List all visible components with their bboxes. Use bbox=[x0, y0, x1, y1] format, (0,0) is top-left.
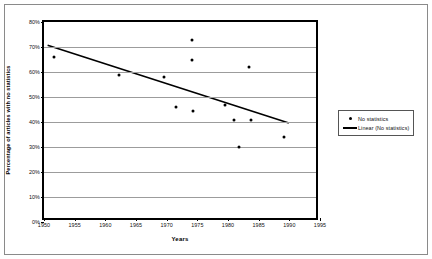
x-tick-label: 1970 bbox=[160, 222, 172, 228]
legend-label: No statistics bbox=[358, 116, 388, 122]
data-point bbox=[52, 56, 55, 59]
linear-trendline bbox=[44, 22, 316, 218]
y-tick-label: 10% bbox=[29, 194, 40, 200]
x-tick-mark bbox=[75, 218, 76, 221]
y-axis-label: Percentage of articles with no statistic… bbox=[5, 65, 11, 174]
data-point bbox=[163, 76, 166, 79]
data-point bbox=[233, 118, 236, 121]
x-tick-label: 1980 bbox=[222, 222, 234, 228]
gridline-horizontal bbox=[44, 122, 316, 123]
y-tick-label: 20% bbox=[29, 169, 40, 175]
x-tick-mark bbox=[289, 218, 290, 221]
x-tick-mark bbox=[228, 218, 229, 221]
y-tick-label: 80% bbox=[29, 19, 40, 25]
x-tick-label: 1995 bbox=[314, 222, 326, 228]
x-tick-label: 1965 bbox=[130, 222, 142, 228]
y-tick-label: 60% bbox=[29, 69, 40, 75]
x-tick-label: 1950 bbox=[38, 222, 50, 228]
legend-item-no-statistics: No statistics bbox=[342, 114, 409, 123]
x-tick-mark bbox=[197, 218, 198, 221]
data-point bbox=[191, 38, 194, 41]
gridline-horizontal bbox=[44, 197, 316, 198]
y-tick-mark bbox=[41, 72, 44, 73]
y-tick-mark bbox=[41, 147, 44, 148]
figure: 0%10%20%30%40%50%60%70%80%19501955196019… bbox=[0, 0, 432, 259]
scatter-chart: 0%10%20%30%40%50%60%70%80%19501955196019… bbox=[0, 0, 432, 259]
y-tick-label: 70% bbox=[29, 44, 40, 50]
data-point bbox=[174, 106, 177, 109]
x-tick-label: 1955 bbox=[68, 222, 80, 228]
gridline-horizontal bbox=[44, 172, 316, 173]
data-point bbox=[283, 136, 286, 139]
gridline-horizontal bbox=[44, 147, 316, 148]
x-tick-mark bbox=[320, 218, 321, 221]
y-tick-mark bbox=[41, 22, 44, 23]
x-tick-label: 1975 bbox=[191, 222, 203, 228]
y-tick-label: 40% bbox=[29, 119, 40, 125]
x-tick-mark bbox=[44, 218, 45, 221]
gridline-horizontal bbox=[44, 97, 316, 98]
y-tick-label: 30% bbox=[29, 144, 40, 150]
chart-legend: No statistics Linear (No statistics) bbox=[338, 110, 414, 136]
y-tick-mark bbox=[41, 47, 44, 48]
trendline-segment bbox=[48, 45, 289, 123]
legend-line-icon bbox=[342, 127, 358, 129]
x-tick-mark bbox=[167, 218, 168, 221]
y-tick-label: 50% bbox=[29, 94, 40, 100]
x-tick-label: 1960 bbox=[99, 222, 111, 228]
data-point bbox=[223, 103, 226, 106]
x-tick-mark bbox=[136, 218, 137, 221]
data-point bbox=[191, 58, 194, 61]
data-point bbox=[249, 118, 252, 121]
gridline-horizontal bbox=[44, 72, 316, 73]
data-point bbox=[248, 66, 251, 69]
legend-label: Linear (No statistics) bbox=[358, 125, 409, 131]
y-tick-mark bbox=[41, 97, 44, 98]
x-tick-mark bbox=[105, 218, 106, 221]
y-tick-mark bbox=[41, 197, 44, 198]
legend-marker-icon bbox=[342, 117, 358, 120]
data-point bbox=[192, 109, 195, 112]
y-tick-mark bbox=[41, 122, 44, 123]
data-point bbox=[117, 73, 120, 76]
x-tick-label: 1985 bbox=[252, 222, 264, 228]
x-axis-label: Years bbox=[42, 236, 318, 242]
gridline-horizontal bbox=[44, 47, 316, 48]
x-tick-mark bbox=[259, 218, 260, 221]
legend-item-linear-no-statistics: Linear (No statistics) bbox=[342, 123, 409, 132]
plot-area: 0%10%20%30%40%50%60%70%80%19501955196019… bbox=[42, 20, 318, 220]
y-tick-mark bbox=[41, 172, 44, 173]
data-point bbox=[238, 146, 241, 149]
x-tick-label: 1990 bbox=[283, 222, 295, 228]
